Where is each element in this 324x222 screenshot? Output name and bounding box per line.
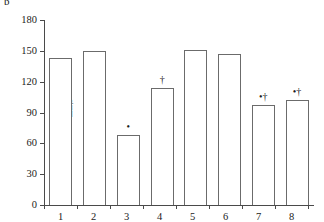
x-tick-edge-8 [308, 205, 309, 209]
bar-2 [83, 51, 106, 205]
x-tick-label-7: 7 [251, 210, 267, 222]
y-tick-label-180: 180 [21, 13, 37, 26]
x-tick-edge-6 [242, 205, 243, 209]
y-tick-label-120: 120 [21, 75, 37, 88]
x-tick-label-4: 4 [152, 210, 168, 222]
x-tick-label-6: 6 [218, 210, 234, 222]
x-tick-edge-4 [176, 205, 177, 209]
x-tick-edge-3 [143, 205, 144, 209]
bar-6 [218, 54, 241, 205]
bar-7 [252, 105, 275, 205]
bar-8 [286, 100, 309, 205]
x-tick-edge-1 [77, 205, 78, 209]
x-tick-edge-0 [44, 205, 45, 209]
y-tick-90: 90 [40, 113, 44, 114]
y-tick-label-150: 150 [21, 44, 37, 57]
y-tick-label-60: 60 [27, 136, 38, 149]
bar-4 [151, 88, 174, 205]
x-tick-edge-7 [275, 205, 276, 209]
figure-panel-b: b ΔL,s 0 30 60 90 120 150 180 1 2 3 4 5 … [0, 0, 324, 222]
y-tick-label-90: 90 [27, 106, 38, 119]
bar-5 [184, 50, 207, 205]
y-tick-30: 30 [40, 174, 44, 175]
bar-annotation-8: •† [277, 86, 317, 97]
x-tick-label-3: 3 [119, 210, 135, 222]
x-tick-edge-5 [209, 205, 210, 209]
plot-area: ΔL,s 0 30 60 90 120 150 180 1 2 3 4 5 6 … [44, 20, 314, 205]
y-tick-label-30: 30 [27, 167, 38, 180]
y-axis-line [44, 20, 45, 205]
x-axis-line [44, 205, 314, 206]
y-tick-150: 150 [40, 51, 44, 52]
panel-label: b [4, 0, 10, 6]
x-tick-label-5: 5 [185, 210, 201, 222]
y-tick-label-0: 0 [32, 198, 37, 211]
bar-annotation-3: • [108, 121, 148, 132]
bar-annotation-4: † [142, 74, 182, 85]
x-tick-label-8: 8 [284, 210, 300, 222]
x-tick-label-2: 2 [86, 210, 102, 222]
y-tick-180: 180 [40, 20, 44, 21]
y-tick-120: 120 [40, 82, 44, 83]
x-tick-label-1: 1 [53, 210, 69, 222]
bar-1 [49, 58, 72, 205]
x-tick-edge-2 [110, 205, 111, 209]
y-tick-60: 60 [40, 143, 44, 144]
bar-3 [117, 135, 140, 205]
